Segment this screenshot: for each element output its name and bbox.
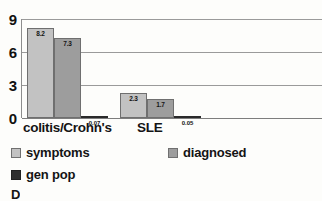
- legend-label-gen-pop: gen pop: [26, 168, 75, 181]
- gridline-0-baseline: [22, 118, 322, 119]
- bar-group-sle: 2.3 1.7 0.05: [120, 19, 204, 118]
- legend-item-gen-pop[interactable]: gen pop: [11, 168, 75, 181]
- bar-sle-symptoms[interactable]: 2.3: [120, 93, 147, 118]
- bar-colitis-diagnosed[interactable]: 7.3: [54, 38, 81, 118]
- bar-group-colitis-crohns: 8.2 7.3 0.07: [27, 19, 111, 118]
- category-label-sle: SLE: [137, 121, 162, 136]
- legend-swatch-symptoms-icon: [11, 148, 21, 158]
- y-tick-3: 3: [9, 78, 17, 93]
- y-tick-6: 6: [9, 45, 17, 60]
- bar-sle-diagnosed[interactable]: 1.7: [147, 99, 174, 118]
- legend-label-diagnosed: diagnosed: [183, 146, 246, 159]
- bar-value-colitis-symptoms: 8.2: [28, 31, 53, 38]
- legend-item-diagnosed[interactable]: diagnosed: [168, 146, 246, 159]
- y-axis: 9 6 3 0: [0, 0, 20, 140]
- bar-sle-genpop[interactable]: 0.05: [174, 116, 201, 118]
- legend-label-symptoms: symptoms: [26, 146, 89, 159]
- bar-value-sle-symptoms: 2.3: [121, 96, 146, 103]
- legend-swatch-diagnosed-icon: [168, 148, 178, 158]
- x-axis-category-labels: colitis/Crohn's SLE: [21, 121, 322, 139]
- clipped-text-fragment: D: [11, 188, 20, 199]
- bar-chart: 9 6 3 0 8.2 7.3 0.07: [0, 0, 322, 201]
- y-tick-9: 9: [9, 12, 17, 27]
- bar-value-sle-diagnosed: 1.7: [148, 102, 173, 109]
- bar-colitis-symptoms[interactable]: 8.2: [27, 28, 54, 118]
- chart-legend: symptoms diagnosed gen pop: [11, 146, 311, 196]
- bars-layer: 8.2 7.3 0.07 2.3 1.7 0.05: [21, 19, 322, 118]
- legend-swatch-gen-pop-icon: [11, 170, 21, 180]
- category-label-colitis-crohns: colitis/Crohn's: [23, 121, 112, 136]
- bar-colitis-genpop[interactable]: 0.07: [81, 116, 108, 118]
- bar-value-colitis-diagnosed: 7.3: [55, 41, 80, 48]
- y-tick-0: 0: [9, 111, 17, 126]
- plot-wrapper: 9 6 3 0 8.2 7.3 0.07: [0, 0, 322, 140]
- legend-item-symptoms[interactable]: symptoms: [11, 146, 89, 159]
